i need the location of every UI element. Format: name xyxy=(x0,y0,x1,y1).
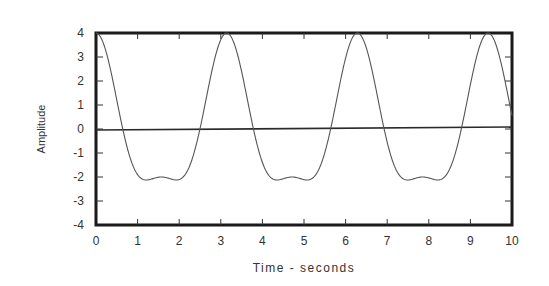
x-axis-ticks: 012345678910 xyxy=(93,33,519,248)
y-axis-title: Amplitude xyxy=(35,105,47,154)
y-tick-label: 3 xyxy=(77,50,84,64)
y-tick-label: 2 xyxy=(77,74,84,88)
y-tick-label: -4 xyxy=(73,218,84,232)
signal-line xyxy=(96,33,512,180)
y-tick-label: 1 xyxy=(77,98,84,112)
x-tick-label: 4 xyxy=(259,234,266,248)
x-tick-label: 10 xyxy=(505,234,519,248)
y-tick-label: 4 xyxy=(77,26,84,40)
x-tick-label: 7 xyxy=(384,234,391,248)
x-tick-label: 9 xyxy=(467,234,474,248)
x-tick-label: 0 xyxy=(93,234,100,248)
y-tick-label: -3 xyxy=(73,194,84,208)
x-tick-label: 2 xyxy=(176,234,183,248)
x-tick-label: 5 xyxy=(301,234,308,248)
zero-line xyxy=(96,127,512,130)
x-tick-label: 8 xyxy=(425,234,432,248)
x-tick-label: 6 xyxy=(342,234,349,248)
x-tick-label: 3 xyxy=(217,234,224,248)
line-chart: 012345678910 43210-1-2-3-4 Time - second… xyxy=(0,0,549,286)
y-tick-label: -1 xyxy=(73,146,84,160)
x-axis-title: Time - seconds xyxy=(253,261,356,275)
x-tick-label: 1 xyxy=(134,234,141,248)
y-tick-label: 0 xyxy=(77,122,84,136)
y-tick-label: -2 xyxy=(73,170,84,184)
